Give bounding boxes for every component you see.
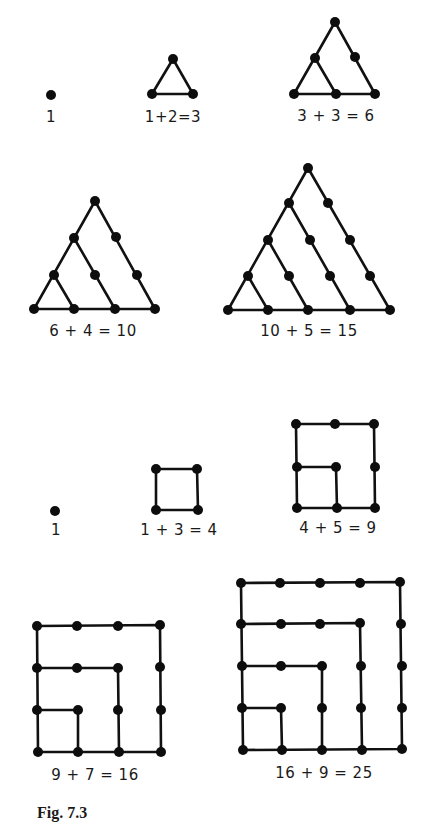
tri-10-label: 6 + 4 = 10: [49, 324, 136, 339]
dot: [395, 577, 405, 587]
dot: [188, 89, 198, 99]
figure-caption: Fig. 7.3: [37, 805, 87, 821]
dot: [113, 621, 123, 631]
sq-16-pattern: [32, 620, 166, 757]
sq-9-label: 4 + 5 = 9: [299, 521, 376, 536]
dot: [32, 663, 42, 673]
dot: [292, 462, 302, 472]
dot: [73, 705, 83, 715]
dot: [323, 198, 333, 208]
dot: [113, 705, 123, 715]
dot: [325, 271, 335, 281]
dot: [156, 747, 166, 757]
connector-line: [37, 625, 161, 752]
dot: [317, 661, 327, 671]
dot: [114, 747, 124, 757]
dot: [317, 703, 327, 713]
connector-line: [242, 708, 282, 750]
sq-25-pattern: [236, 577, 407, 755]
dot: [90, 196, 100, 206]
dot: [50, 506, 60, 516]
dot: [289, 89, 299, 99]
dot: [151, 464, 161, 474]
dot: [357, 745, 367, 755]
dot: [243, 271, 253, 281]
square-numbers-group: [32, 419, 407, 757]
dot: [113, 663, 123, 673]
tri-1-pattern: [46, 90, 56, 100]
dot: [315, 619, 325, 629]
dot: [397, 661, 407, 671]
dot: [356, 703, 366, 713]
dot: [32, 621, 42, 631]
dot: [192, 464, 202, 474]
dot: [370, 503, 380, 513]
dot: [263, 305, 273, 315]
dot: [310, 53, 320, 63]
dot: [90, 270, 100, 280]
dot: [331, 89, 341, 99]
dot: [151, 505, 161, 515]
connector-line: [315, 58, 336, 94]
tri-3-label: 1+2=3: [145, 110, 201, 125]
sq-1-pattern: [50, 506, 60, 516]
dot: [370, 89, 380, 99]
dot: [46, 90, 56, 100]
dot: [223, 305, 233, 315]
dot: [111, 232, 121, 242]
connector-line: [294, 22, 375, 94]
dot: [110, 304, 120, 314]
dot: [236, 578, 246, 588]
tri-3-pattern: [147, 54, 198, 99]
dot: [303, 305, 313, 315]
tri-15-label: 10 + 5 = 15: [260, 324, 357, 339]
dot: [132, 270, 142, 280]
dot: [356, 661, 366, 671]
dot: [365, 271, 375, 281]
dot: [147, 89, 157, 99]
dot: [237, 661, 247, 671]
sq-25-label: 16 + 9 = 25: [275, 766, 372, 781]
dot: [305, 235, 315, 245]
dot: [397, 744, 407, 754]
dot: [32, 705, 42, 715]
sq-9-pattern: [291, 419, 380, 513]
dot: [350, 52, 360, 62]
dot: [238, 745, 248, 755]
dot: [355, 578, 365, 588]
dot: [237, 703, 247, 713]
dot: [73, 747, 83, 757]
dot: [331, 462, 341, 472]
dot: [315, 578, 325, 588]
dot: [69, 304, 79, 314]
sq-4-label: 1 + 3 = 4: [140, 523, 217, 538]
connector-line: [54, 275, 74, 309]
sq-4-pattern: [151, 464, 203, 515]
dot: [49, 270, 59, 280]
dot: [276, 703, 286, 713]
dot: [330, 17, 340, 27]
dot: [284, 198, 294, 208]
dot: [317, 745, 327, 755]
dot: [355, 618, 365, 628]
dot: [193, 505, 203, 515]
dot: [168, 54, 178, 64]
connector-line: [156, 469, 198, 510]
dot: [345, 235, 355, 245]
dot: [69, 233, 79, 243]
tri-15-pattern: [223, 163, 395, 315]
connector-line: [248, 276, 268, 310]
dot: [156, 705, 166, 715]
dot: [150, 304, 160, 314]
sq-1-label: 1: [51, 523, 61, 538]
tri-6-label: 3 + 3 = 6: [297, 109, 374, 124]
connector-line: [297, 467, 337, 508]
dot: [72, 663, 82, 673]
dot: [72, 621, 82, 631]
dot: [370, 462, 380, 472]
dot: [236, 619, 246, 629]
dot: [276, 619, 286, 629]
dot: [155, 662, 165, 672]
dot: [284, 271, 294, 281]
tri-10-pattern: [29, 196, 160, 314]
